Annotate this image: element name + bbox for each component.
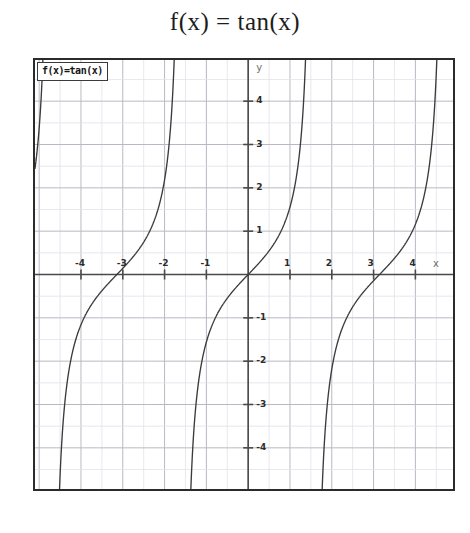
x-axis-label: x [433, 258, 439, 269]
chart-page: f(x) = tan(x) -4-3-2-112344321-1-2-3-4 f… [0, 0, 470, 533]
tan-curve [35, 60, 453, 489]
y-tick-label: -3 [256, 399, 266, 409]
x-tick-label: 3 [368, 258, 374, 268]
x-tick-label: -2 [159, 258, 169, 268]
y-tick-label: -2 [256, 355, 266, 365]
plot-area: -4-3-2-112344321-1-2-3-4 f(x)=tan(x) x y [35, 60, 453, 489]
y-tick-label: 4 [256, 95, 262, 105]
y-tick-label: 2 [256, 182, 262, 192]
y-tick-label: 3 [256, 139, 262, 149]
x-tick-label: 4 [409, 258, 415, 268]
plot-frame: -4-3-2-112344321-1-2-3-4 f(x)=tan(x) x y [33, 58, 455, 491]
x-tick-label: 2 [326, 258, 332, 268]
x-tick-label: -3 [117, 258, 127, 268]
y-tick-label: -1 [256, 312, 266, 322]
page-title: f(x) = tan(x) [0, 8, 470, 36]
x-tick-label: 1 [284, 258, 290, 268]
y-axis-label: y [256, 62, 262, 73]
y-tick-label: -4 [256, 442, 266, 452]
y-tick-label: 1 [256, 225, 262, 235]
legend-label: f(x)=tan(x) [37, 62, 108, 81]
x-tick-label: -4 [75, 258, 85, 268]
x-tick-label: -1 [200, 258, 210, 268]
